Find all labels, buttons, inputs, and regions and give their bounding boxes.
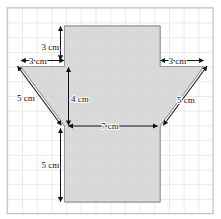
label-middle-7cm: 7 cm bbox=[101, 121, 119, 131]
label-right-slant-5cm: 5 cm bbox=[177, 95, 195, 105]
figure-canvas: 3 cm 3 cm 3 cm 5 cm 5 cm 4 cm bbox=[0, 0, 221, 219]
label-top-vertical-3cm: 3 cm bbox=[42, 42, 60, 52]
label-left-slant-5cm: 5 cm bbox=[17, 93, 35, 103]
label-inner-vertical-4cm: 4 cm bbox=[71, 94, 89, 104]
label-bottom-vertical-5cm: 5 cm bbox=[42, 160, 60, 170]
geometry-diagram: 3 cm 3 cm 3 cm 5 cm 5 cm 4 cm bbox=[0, 0, 221, 219]
label-right-top-3cm: 3 cm bbox=[169, 56, 187, 66]
label-left-top-3cm: 3 cm bbox=[29, 56, 47, 66]
